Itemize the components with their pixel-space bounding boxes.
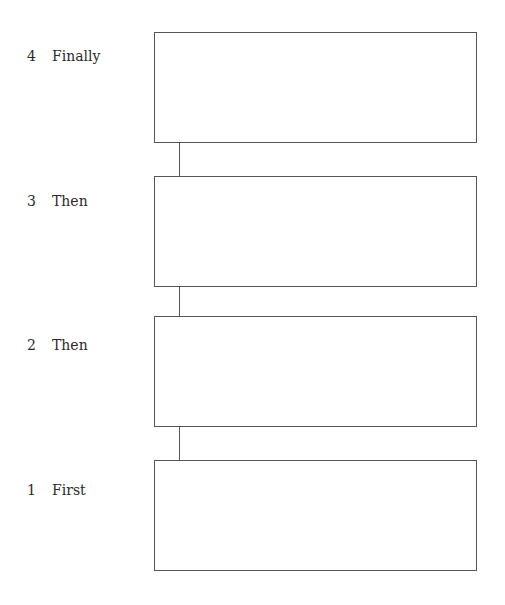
step-1-box[interactable] xyxy=(154,460,477,571)
step-number: 3 xyxy=(27,193,36,209)
step-3-box[interactable] xyxy=(154,176,477,287)
step-2-box[interactable] xyxy=(154,316,477,427)
step-name: Then xyxy=(52,193,88,209)
step-name: Then xyxy=(52,337,88,353)
step-name: Finally xyxy=(52,48,100,64)
connector-line xyxy=(179,427,180,460)
step-name: First xyxy=(52,482,86,498)
step-number: 4 xyxy=(27,48,36,64)
step-4-box[interactable] xyxy=(154,32,477,143)
step-number: 2 xyxy=(27,337,36,353)
step-number: 1 xyxy=(27,482,36,498)
connector-line xyxy=(179,143,180,176)
connector-line xyxy=(179,287,180,316)
